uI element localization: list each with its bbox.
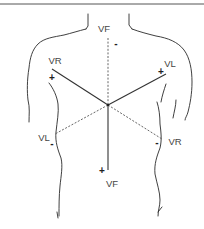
vr-axis-positive-half	[52, 69, 108, 105]
neck-right	[129, 14, 132, 29]
left-hip-mark	[57, 212, 58, 218]
label-vf-top: VF	[98, 23, 110, 34]
sign-vr-lower-negative: -	[155, 137, 158, 148]
label-vl-lower: VL	[38, 132, 50, 143]
sign-vr-upper-positive: +	[49, 72, 55, 83]
label-vr-lower: VR	[168, 136, 181, 147]
polarity-signs: - + + - - +	[49, 38, 164, 176]
sign-vf-bottom-positive: +	[99, 165, 105, 176]
label-vr-upper: VR	[48, 55, 61, 66]
label-vl-upper: VL	[164, 58, 176, 69]
sign-vf-top-negative: -	[114, 38, 117, 49]
unipolar-limb-lead-axes-diagram: VF VR VL VL VR VF - + + - - +	[0, 0, 204, 229]
sign-vl-upper-positive: +	[158, 66, 164, 77]
neck-left	[86, 14, 88, 29]
label-vf-bottom: VF	[106, 178, 118, 189]
lead-axes	[52, 38, 166, 170]
right-arm-inner	[161, 84, 166, 102]
right-arm-lower	[173, 100, 176, 118]
left-shoulder-arm	[27, 29, 86, 122]
axes-center-point	[107, 104, 110, 107]
vl-axis-positive-half	[108, 74, 166, 105]
sign-vl-lower-negative: -	[50, 138, 53, 149]
left-torso-side	[49, 83, 62, 216]
vr-axis-negative-half	[108, 105, 162, 139]
right-torso-side	[155, 102, 161, 216]
lead-labels: VF VR VL VL VR VF	[38, 23, 182, 189]
vl-axis-negative-half	[55, 105, 108, 134]
